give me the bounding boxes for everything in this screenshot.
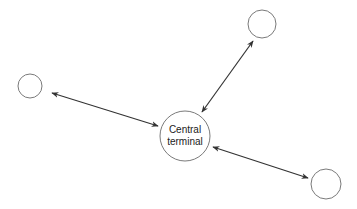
link-bottomright-central [213,147,308,178]
central-label-line1: Central [160,124,210,136]
node-bottom-right [311,169,341,199]
node-left [18,74,42,98]
link-topright-central [202,41,253,112]
link-left-central [52,93,158,126]
central-terminal-label: Central terminal [160,124,210,148]
node-top-right [248,10,276,38]
central-label-line2: terminal [160,136,210,148]
network-diagram [0,0,357,209]
